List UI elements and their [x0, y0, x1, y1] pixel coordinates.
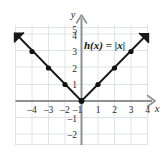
vertex-point	[79, 98, 85, 104]
data-point	[112, 65, 117, 70]
x-axis-label: x	[154, 103, 160, 114]
equation-annotation: h(x) = |x|	[84, 39, 125, 52]
y-axis-label: y	[70, 9, 76, 20]
x-tick-label: 1	[96, 105, 101, 115]
y-tick-label: 3	[72, 47, 77, 57]
x-tick-label: –4	[26, 105, 37, 115]
coordinate-plane: x y –4 –3 –2 –1 1 2 3 4 –2 –1 1 2 3 4 5	[0, 0, 168, 158]
y-tick-label: 1	[72, 80, 77, 90]
data-point	[62, 82, 67, 87]
data-point	[128, 49, 133, 54]
x-tick-label: –3	[43, 105, 54, 115]
x-tick-label: 2	[112, 105, 117, 115]
x-tick-label: 4	[145, 105, 150, 115]
data-point	[29, 49, 34, 54]
data-point	[46, 65, 51, 70]
y-tick-label: 5	[72, 25, 77, 35]
absolute-value-graph-figure: x y –4 –3 –2 –1 1 2 3 4 –2 –1 1 2 3 4 5	[0, 0, 168, 158]
y-tick-label: –1	[67, 114, 78, 124]
data-point	[95, 82, 100, 87]
x-tick-label: 3	[129, 105, 134, 115]
y-tick-label: –2	[67, 130, 78, 140]
y-tick-label: 2	[72, 64, 77, 74]
